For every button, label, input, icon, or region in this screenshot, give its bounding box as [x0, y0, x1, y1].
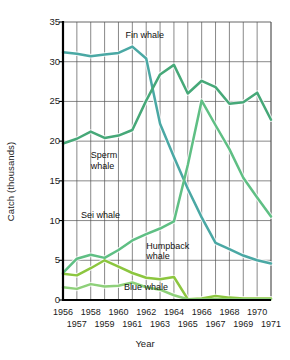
x-axis-label: Year	[0, 338, 290, 349]
x-axis-tick-label: 1965	[173, 319, 203, 329]
x-axis-tick-label: 1957	[62, 319, 92, 329]
x-axis-tick-label: 1959	[90, 319, 120, 329]
x-axis-tick-label: 1971	[256, 319, 286, 329]
series-annotation-label: Sei whale	[81, 210, 120, 221]
x-axis-tick-label: 1961	[117, 319, 147, 329]
x-axis-tick-label: 1966	[187, 307, 217, 317]
series-annotation-label: Sperm whale	[91, 150, 118, 171]
whale-catch-chart-figure: Catch (thousands) 05101520253035 1956195…	[0, 0, 290, 360]
x-axis-tick-label: 1963	[145, 319, 175, 329]
x-axis-tick-label: 1967	[201, 319, 231, 329]
series-annotation-label: Blue whale	[124, 282, 168, 293]
x-axis-tick-label: 1970	[242, 307, 272, 317]
x-axis-tick-label: 1964	[159, 307, 189, 317]
x-axis-tick-label: 1956	[48, 307, 78, 317]
x-axis-label-text: Year	[135, 338, 154, 349]
series-annotation-label: Fin whale	[125, 30, 164, 41]
x-axis-tick-label: 1968	[214, 307, 244, 317]
x-axis-tick-label: 1958	[76, 307, 106, 317]
x-axis-tick-label: 1969	[228, 319, 258, 329]
x-axis-tick-label: 1960	[103, 307, 133, 317]
x-axis-ticks: 1956195719581959196019611962196319641965…	[0, 0, 290, 360]
series-annotation-label: Humpback whale	[146, 241, 189, 262]
x-axis-tick-label: 1962	[131, 307, 161, 317]
